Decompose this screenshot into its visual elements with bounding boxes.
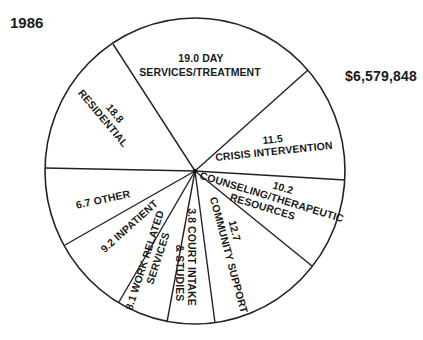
label-day-value: 19.0 DAY: [178, 52, 223, 64]
label-court-value: 3.8 COURT INTAKE: [186, 208, 198, 306]
label-day-name: SERVICES/TREATMENT: [139, 66, 261, 78]
label-court-name: & STUDIES: [174, 245, 186, 302]
pie-center: [193, 169, 197, 173]
pie-chart: 19.0 DAY SERVICES/TREATMENT 11.5 CRISIS …: [0, 0, 423, 340]
